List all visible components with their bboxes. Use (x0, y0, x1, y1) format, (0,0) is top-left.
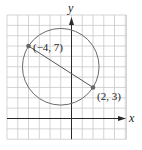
coordinate-plane: x y (−4, 7) (2, 3) (0, 0, 142, 150)
point-label-a: (−4, 7) (33, 41, 63, 54)
y-axis-arrow-icon (69, 17, 74, 25)
x-axis-label: x (128, 111, 135, 125)
point-marker (26, 44, 31, 49)
point-label-b: (2, 3) (97, 90, 121, 103)
x-axis-arrow-icon (118, 116, 126, 121)
grid-lines (7, 15, 127, 139)
point-marker (91, 85, 96, 90)
y-axis-label: y (67, 1, 74, 15)
